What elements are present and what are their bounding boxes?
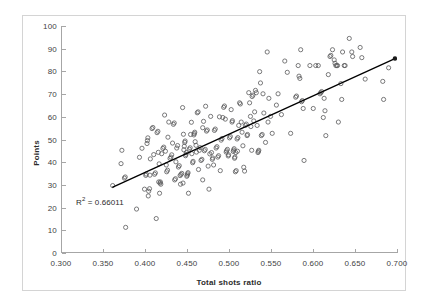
scatter-point	[207, 187, 211, 191]
scatter-point	[347, 36, 351, 40]
scatter-point	[222, 104, 226, 108]
x-tick-label: 0.500	[218, 259, 239, 268]
scatter-point	[350, 50, 354, 54]
scatter-point	[162, 145, 166, 149]
scatter-point	[134, 207, 138, 211]
scatter-point	[279, 112, 283, 116]
scatter-point	[241, 144, 245, 148]
scatter-point	[253, 110, 257, 114]
scatter-point	[147, 187, 151, 191]
scatter-point	[213, 127, 217, 131]
scatter-point	[262, 111, 266, 115]
scatter-point	[188, 146, 192, 150]
scatter-point	[137, 155, 141, 159]
scatter-point	[294, 94, 298, 98]
scatter-point	[340, 50, 344, 54]
y-tick-label: 30	[31, 180, 57, 189]
scatter-point	[123, 175, 127, 179]
scatter-point	[147, 189, 151, 193]
x-tick-label: 0.700	[386, 259, 407, 268]
scatter-point	[205, 128, 209, 132]
y-tick-label: 60	[31, 112, 57, 121]
scatter-point	[322, 96, 326, 100]
chart-figure: Points 0102030405060708090100 R2 = 0.660…	[22, 15, 406, 291]
scatter-point	[151, 125, 155, 129]
scatter-point	[289, 131, 293, 135]
x-tick-mark	[103, 249, 104, 253]
scatter-point	[323, 109, 327, 113]
scatter-point	[267, 96, 271, 100]
scatter-point	[234, 169, 238, 173]
scatter-point	[173, 177, 177, 181]
scatter-point	[261, 92, 265, 96]
scatter-point	[326, 73, 330, 77]
scatter-point	[330, 48, 334, 52]
y-tick-label: 80	[31, 67, 57, 76]
x-tick-mark	[61, 249, 62, 253]
scatter-point	[329, 53, 333, 57]
scatter-point	[381, 79, 385, 83]
scatter-point	[170, 141, 174, 145]
x-tick-mark	[355, 249, 356, 253]
y-tick-label: 70	[31, 90, 57, 99]
scatter-point	[186, 191, 190, 195]
scatter-point	[321, 115, 325, 119]
scatter-point	[218, 169, 222, 173]
x-tick-label: 0.300	[50, 259, 71, 268]
x-tick-label: 0.400	[134, 259, 155, 268]
scatter-point	[146, 136, 150, 140]
scatter-point	[140, 146, 144, 150]
scatter-point	[276, 92, 280, 96]
scatter-point	[302, 158, 306, 162]
scatter-point	[152, 153, 156, 157]
scatter-point	[200, 157, 204, 161]
scatter-point	[351, 54, 355, 58]
scatter-point	[217, 154, 221, 158]
scatter-point	[299, 48, 303, 52]
scatter-point	[196, 167, 200, 171]
trendline-group	[112, 56, 397, 187]
y-tick-label: 0	[31, 249, 57, 258]
scatter-point	[260, 132, 264, 136]
scatter-point	[177, 164, 181, 168]
scatter-point	[163, 113, 167, 117]
scatter-point	[156, 129, 160, 133]
x-axis-title: Total shots ratio	[61, 278, 397, 287]
scatter-point	[283, 59, 287, 63]
scatter-point	[124, 225, 128, 229]
scatter-point	[178, 182, 182, 186]
scatter-point	[146, 194, 150, 198]
scatter-point	[203, 147, 207, 151]
x-tick-label: 0.350	[92, 259, 113, 268]
scatter-point	[387, 66, 391, 70]
y-tick-label: 10	[31, 226, 57, 235]
y-tick-label: 100	[31, 22, 57, 31]
scatter-point	[311, 106, 315, 110]
scatter-point	[157, 191, 161, 195]
x-tick-label: 0.650	[344, 259, 365, 268]
scatter-point	[209, 114, 213, 118]
scatter-point	[247, 91, 251, 95]
y-tick-label: 50	[31, 135, 57, 144]
x-tick-mark	[271, 249, 272, 253]
scatter-point	[206, 164, 210, 168]
scatter-point	[236, 136, 240, 140]
scatter-point	[301, 106, 305, 110]
scatter-point	[255, 123, 259, 127]
scatter-point	[142, 187, 146, 191]
scatter-point	[181, 105, 185, 109]
scatter-point	[308, 63, 312, 67]
x-tick-label: 0.550	[260, 259, 281, 268]
scatter-point	[296, 63, 300, 67]
scatter-point	[201, 126, 205, 130]
y-tick-label: 90	[31, 44, 57, 53]
x-tick-mark	[397, 249, 398, 253]
scatter-point	[201, 119, 205, 123]
scatter-point	[248, 101, 252, 105]
scatter-point	[240, 130, 244, 134]
scatter-point	[211, 163, 215, 167]
scatter-point	[266, 120, 270, 124]
scatter-point	[166, 135, 170, 139]
scatter-point	[175, 143, 179, 147]
r-squared-value: = 0.66011	[85, 197, 123, 206]
